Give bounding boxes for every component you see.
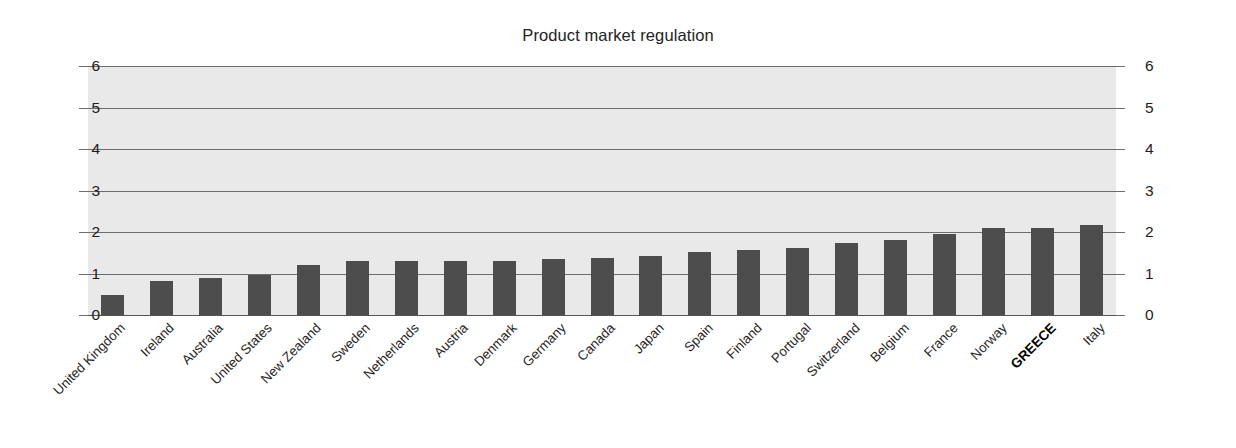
bar [248, 275, 271, 315]
y-tick-mark-left-3 [79, 191, 88, 192]
y-tick-label-right-1: 1 [1145, 266, 1185, 282]
bar [542, 259, 565, 315]
bar [1031, 228, 1054, 315]
y-tick-label-right-6: 6 [1145, 58, 1185, 74]
x-axis-label: Belgium [868, 321, 911, 364]
bar [933, 234, 956, 315]
x-axis-label: Australia [180, 321, 226, 367]
x-axis-label: Sweden [329, 321, 372, 364]
x-axis-label: Austria [432, 321, 471, 360]
x-axis-label: Portugal [769, 321, 813, 365]
x-axis-label: Spain [682, 321, 715, 354]
chart-title: Product market regulation [0, 26, 1236, 45]
gridline-3 [88, 191, 1116, 192]
y-tick-mark-left-5 [79, 108, 88, 109]
gridline-2 [88, 232, 1116, 233]
bar [297, 265, 320, 315]
x-axis-label: Finland [724, 321, 764, 361]
x-axis-label: United Kingdom [52, 321, 128, 397]
x-axis-label: GREECE [1008, 321, 1058, 371]
bar [444, 261, 467, 315]
bar [101, 295, 124, 315]
y-tick-label-right-3: 3 [1145, 183, 1185, 199]
y-tick-label-right-2: 2 [1145, 224, 1185, 240]
y-tick-mark-left-6 [79, 66, 88, 67]
bar [737, 250, 760, 315]
plot-area [88, 66, 1116, 315]
bar [150, 281, 173, 315]
y-tick-mark-left-4 [79, 149, 88, 150]
y-tick-mark-right-2 [1116, 232, 1125, 233]
bar [395, 261, 418, 315]
x-axis-label: Ireland [139, 321, 177, 359]
bar [591, 258, 614, 315]
bar [688, 252, 711, 315]
x-axis-label: Japan [631, 321, 666, 356]
gridline-0 [88, 315, 1116, 316]
gridline-5 [88, 108, 1116, 109]
y-tick-mark-right-0 [1116, 315, 1125, 316]
y-tick-mark-right-3 [1116, 191, 1125, 192]
chart-figure: Product market regulation 0123456 012345… [0, 0, 1236, 448]
x-axis-label: France [921, 321, 960, 360]
x-axis-label: Italy [1080, 321, 1107, 348]
x-axis-label: Denmark [472, 321, 520, 369]
gridline-4 [88, 149, 1116, 150]
y-tick-mark-right-6 [1116, 66, 1125, 67]
y-tick-label-right-0: 0 [1145, 307, 1185, 323]
y-tick-mark-right-5 [1116, 108, 1125, 109]
bar [786, 248, 809, 315]
bar [1080, 225, 1103, 315]
bar [346, 261, 369, 315]
x-axis-label: Germany [520, 321, 568, 369]
x-axis-label: Norway [968, 321, 1009, 362]
y-tick-mark-right-1 [1116, 274, 1125, 275]
y-tick-mark-left-0 [79, 315, 88, 316]
bar [199, 278, 222, 315]
gridline-6 [88, 66, 1116, 67]
y-tick-mark-left-2 [79, 232, 88, 233]
y-tick-label-right-5: 5 [1145, 100, 1185, 116]
bar [982, 228, 1005, 315]
bar [639, 256, 662, 315]
y-tick-mark-right-4 [1116, 149, 1125, 150]
y-tick-mark-left-1 [79, 274, 88, 275]
bar [835, 243, 858, 315]
bar [884, 240, 907, 315]
x-axis-label: Canada [575, 321, 617, 363]
bar [493, 261, 516, 315]
y-tick-label-right-4: 4 [1145, 141, 1185, 157]
